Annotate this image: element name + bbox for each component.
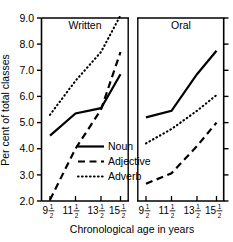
x-label-numerator: 1 [75, 203, 79, 210]
legend-label-adverb: Adverb [108, 170, 141, 182]
x-label-denominator: 2 [196, 212, 200, 219]
x-label-numerator: 1 [146, 203, 150, 210]
x-label-whole: 9 [42, 205, 48, 216]
y-axis-title: Per cent of total classes [0, 54, 11, 165]
x-label-numerator: 1 [196, 203, 200, 210]
x-label-whole: 13 [87, 205, 99, 216]
x-label-numerator: 1 [218, 203, 222, 210]
x-label-numerator: 1 [100, 203, 104, 210]
x-label-numerator: 1 [50, 203, 54, 210]
panel-title-oral: Oral [171, 19, 191, 31]
x-label-whole: 9 [138, 205, 144, 216]
x-label-denominator: 2 [100, 212, 104, 219]
legend-label-adjective: Adjective [108, 155, 151, 167]
x-label-denominator: 2 [50, 212, 54, 219]
y-tick-label-4: 4.0 [19, 142, 34, 154]
x-label-denominator: 2 [218, 212, 222, 219]
line-chart: 2.0 3.0 4.0 5.0 6.0 7.0 8.0 9.0 Per cent… [0, 0, 233, 242]
y-tick-label-3: 3.0 [19, 169, 34, 181]
x-label-whole: 15 [109, 205, 121, 216]
y-tick-label-5: 5.0 [19, 116, 34, 128]
x-label-whole: 11 [159, 205, 170, 216]
x-label-whole: 15 [205, 205, 217, 216]
x-label-numerator: 1 [122, 203, 126, 210]
legend-label-noun: Noun [108, 140, 133, 152]
y-tick-label-7: 7.0 [19, 64, 34, 76]
y-tick-label-6: 6.0 [19, 90, 34, 102]
x-label-whole: 13 [183, 205, 195, 216]
y-tick-label-8: 8.0 [19, 38, 34, 50]
x-label-numerator: 1 [171, 203, 175, 210]
x-axis-title: Chronological age in years [70, 223, 194, 235]
x-label-denominator: 2 [75, 212, 79, 219]
x-label-denominator: 2 [146, 212, 150, 219]
y-tick-label-9: 9.0 [19, 12, 34, 24]
x-label-whole: 11 [63, 205, 74, 216]
panel-title-written: Written [68, 19, 101, 31]
x-label-denominator: 2 [171, 212, 175, 219]
x-label-denominator: 2 [122, 212, 126, 219]
chart-figure: 2.0 3.0 4.0 5.0 6.0 7.0 8.0 9.0 Per cent… [0, 0, 233, 242]
y-tick-label-2: 2.0 [19, 195, 34, 207]
